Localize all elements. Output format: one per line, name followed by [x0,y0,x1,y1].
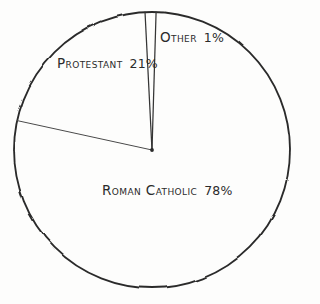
slice-divider-other-protestant [145,12,152,150]
pie-chart-figure: Other1% Protestant21% Roman Catholic78% [0,0,320,304]
slice-label-roman-catholic: Roman Catholic78% [102,184,233,198]
slice-label-roman-catholic-name: Roman Catholic [102,182,197,198]
slice-label-other: Other1% [160,31,224,45]
slice-divider-roman-catholic-other [152,12,156,150]
slice-divider-protestant-roman-catholic [17,121,152,150]
slice-label-protestant-percent: 21% [130,56,158,71]
slice-label-protestant-name: Protestant [57,55,123,71]
pie-chart-canvas [0,0,320,304]
pie-center-point [150,148,154,152]
slice-label-other-percent: 1% [204,30,224,45]
slice-label-other-name: Other [160,29,197,45]
slice-label-protestant: Protestant21% [57,57,158,71]
slice-label-roman-catholic-percent: 78% [204,183,232,198]
